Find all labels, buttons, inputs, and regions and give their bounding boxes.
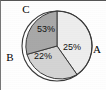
slice-label-a: 25%: [63, 42, 81, 52]
slice-label-b: 22%: [34, 51, 52, 61]
category-label-b: B: [6, 51, 13, 63]
pie-chart-svg: 25% 22% 53% A B C: [1, 1, 106, 90]
slice-label-c: 53%: [37, 24, 55, 34]
category-label-a: A: [93, 43, 101, 55]
pie-chart-figure: 25% 22% 53% A B C: [0, 0, 106, 90]
category-label-c: C: [22, 3, 29, 15]
